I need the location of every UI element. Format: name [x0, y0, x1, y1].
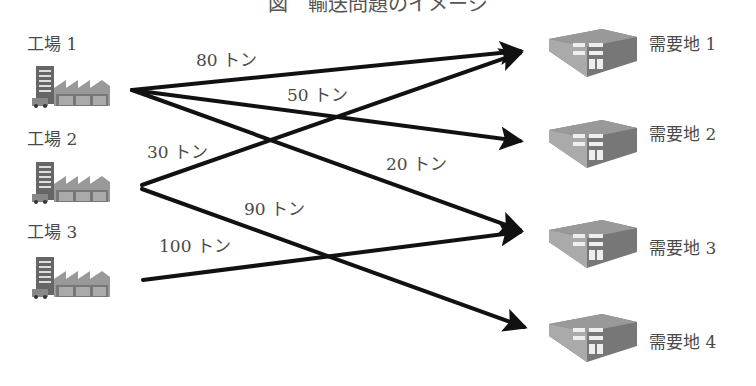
factory-2-label: 工場 2 — [27, 125, 77, 150]
demand-3-label: 需要地 3 — [649, 234, 716, 259]
warehouse-icon — [547, 218, 637, 268]
flow-label-f1-d2: 50 トン — [287, 81, 348, 106]
demand-1-label: 需要地 1 — [649, 30, 716, 55]
flow-label-f2-d1: 30 トン — [147, 138, 208, 163]
factory-1-label: 工場 1 — [27, 30, 77, 55]
flow-arrows — [0, 0, 756, 386]
factory-3-label: 工場 3 — [27, 218, 77, 243]
warehouse-icon — [547, 27, 637, 77]
factory-icon — [32, 160, 112, 204]
factory-icon — [32, 64, 112, 108]
flow-arrow-f2-d1 — [142, 53, 520, 185]
demand-2-label: 需要地 2 — [649, 120, 716, 145]
flow-label-f3-d3: 100 トン — [159, 232, 231, 257]
factory-icon — [32, 255, 112, 299]
flow-label-f1-d1: 80 トン — [196, 46, 257, 71]
flow-label-f2-d4: 90 トン — [244, 195, 305, 220]
flow-label-f1-d3: 20 トン — [386, 150, 447, 175]
warehouse-icon — [547, 118, 637, 168]
warehouse-icon — [547, 312, 637, 362]
demand-4-label: 需要地 4 — [649, 328, 716, 353]
